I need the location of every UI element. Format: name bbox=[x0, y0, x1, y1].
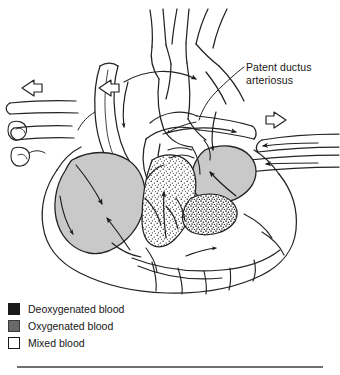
left-subclavian-left-wall bbox=[196, 9, 208, 44]
ivc-upper-wall bbox=[250, 155, 339, 160]
descending-aorta-outer bbox=[219, 66, 244, 101]
ascending-aorta-right-wall bbox=[187, 63, 190, 119]
hollow-arrow-vc-right bbox=[266, 112, 286, 128]
legend-item-mixed: Mixed blood bbox=[8, 334, 208, 351]
left-subclavian-right-wall bbox=[213, 9, 227, 48]
pv-upper-wall-b bbox=[14, 126, 72, 128]
la-left-wall bbox=[95, 66, 110, 165]
svc-cut-end bbox=[256, 140, 262, 152]
valve-cusp-a bbox=[168, 148, 192, 150]
vein-stump-tail bbox=[29, 151, 45, 153]
legend-label-mixed: Mixed blood bbox=[28, 337, 85, 349]
pv-upper-wall-a bbox=[10, 101, 76, 103]
legend: Deoxygenated blood Oxygenated blood Mixe… bbox=[8, 300, 208, 351]
legend-label-oxygenated: Oxygenated blood bbox=[28, 320, 113, 332]
hollow-arrow-pv-lower bbox=[99, 80, 119, 96]
legend-swatch-mixed bbox=[8, 337, 20, 349]
la-lower-left-fold bbox=[78, 112, 95, 130]
aortic-arch-group bbox=[124, 9, 244, 104]
right-atrium-appendage-stipple bbox=[182, 194, 237, 235]
arch-septum-b bbox=[186, 43, 187, 63]
vein-stump-lower bbox=[11, 147, 30, 166]
ductus-right-cap bbox=[252, 126, 256, 139]
hollow-arrow-pv-upper bbox=[22, 80, 42, 96]
hollow-arrows bbox=[22, 80, 286, 128]
descending-aorta-inner bbox=[206, 72, 226, 104]
ivc-lower-wall bbox=[248, 167, 339, 172]
left-ventricle-fill bbox=[55, 153, 145, 254]
vein-stump-upper-inner bbox=[16, 128, 25, 133]
arrow-arch-outflow bbox=[124, 71, 196, 82]
arch-outer-right bbox=[196, 44, 219, 66]
rv-free-wall-fold-b bbox=[244, 214, 272, 238]
legend-swatch-deoxygenated bbox=[8, 303, 20, 315]
coronary-branch-c bbox=[204, 271, 206, 294]
legend-swatch-oxygenated bbox=[8, 320, 20, 332]
la-top-cap bbox=[100, 63, 118, 66]
pv-cut-a bbox=[6, 103, 10, 114]
vein-stump-lower-inner bbox=[18, 154, 27, 159]
annotation-patent-ductus-arteriosus: Patent ductus arteriosus bbox=[246, 61, 312, 86]
brachiocephalic-trunk-right-wall bbox=[163, 9, 166, 45]
la-right-wall bbox=[114, 66, 131, 164]
arrow-apex-flow bbox=[186, 248, 216, 256]
arrow-la-upper bbox=[123, 82, 128, 127]
legend-item-deoxygenated: Deoxygenated blood bbox=[8, 300, 208, 317]
legend-item-oxygenated: Oxygenated blood bbox=[8, 317, 208, 334]
brachiocephalic-trunk-left-wall bbox=[150, 10, 152, 47]
pv-lower-wall-b bbox=[16, 138, 74, 140]
ascending-aorta-left-wall bbox=[158, 79, 164, 130]
arrow-ivc-inflow bbox=[266, 163, 318, 164]
coronary-branch-b bbox=[178, 268, 182, 294]
pda-leader-line bbox=[199, 67, 244, 120]
arrow-svc-inflow bbox=[263, 143, 318, 146]
left-common-carotid-right-wall bbox=[186, 9, 189, 43]
arch-inner-left bbox=[151, 47, 159, 79]
right-ventricle-stipple bbox=[142, 155, 196, 247]
pulmonary-trunk-descend-left bbox=[143, 139, 147, 179]
rv-free-wall-fold bbox=[262, 232, 284, 255]
bottom-divider bbox=[17, 366, 323, 368]
ascending-aorta-group bbox=[158, 63, 206, 147]
legend-label-deoxygenated: Deoxygenated blood bbox=[28, 303, 124, 315]
svc-upper-wall bbox=[262, 134, 339, 140]
aorta-inner-fold bbox=[166, 64, 171, 99]
coronary-sulcus bbox=[132, 250, 280, 271]
arch-septum-a bbox=[166, 45, 171, 64]
coronary-branch-f bbox=[146, 248, 157, 272]
svc-lower-wall bbox=[258, 147, 339, 152]
ductus-lower-wall bbox=[199, 130, 254, 139]
left-common-carotid-left-wall bbox=[172, 9, 177, 44]
ductus-upper-wall bbox=[197, 116, 252, 126]
pv-lower-wall-a bbox=[10, 113, 78, 114]
